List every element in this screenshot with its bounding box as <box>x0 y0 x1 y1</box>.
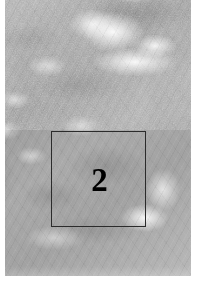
figure-root: 2 <box>0 0 199 292</box>
scan-film-grain-layer <box>5 0 191 130</box>
roi-label: 2 <box>52 132 147 228</box>
roi-annotation-box[interactable]: 2 <box>51 131 146 227</box>
scan-cloud-mottle-layer <box>5 0 191 130</box>
